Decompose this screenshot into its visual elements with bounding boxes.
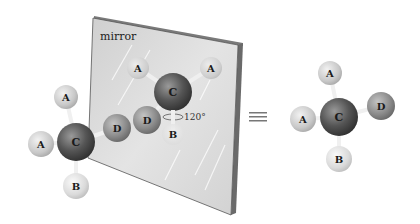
right-atom-c-label: C <box>335 111 344 124</box>
right-atom-a-top-label: A <box>325 68 334 79</box>
left-atom-a-top-label: A <box>61 92 70 103</box>
mirror-atom-d-label: D <box>143 115 152 126</box>
mirror-atom-b-label: B <box>169 129 177 140</box>
left-atom-c-label: C <box>72 136 81 149</box>
right-atom-d-label: D <box>377 101 386 112</box>
angle-label: 120° <box>184 112 206 122</box>
mirror-atom-a-left-label: A <box>133 63 142 74</box>
chirality-diagram: mirror B A A C D 120° A D A <box>0 0 420 224</box>
left-atom-b-label: B <box>72 181 80 192</box>
left-atom-a-left-label: A <box>36 139 45 150</box>
mirror-atom-c-label: C <box>169 86 178 99</box>
right-molecule: A D A B C <box>290 61 395 172</box>
left-atom-d-label: D <box>113 123 122 134</box>
mirror-atom-a-right-label: A <box>206 63 215 74</box>
right-atom-b-label: B <box>335 154 343 165</box>
right-atom-a-left-label: A <box>298 114 307 125</box>
mirror-label: mirror <box>100 30 137 43</box>
equivalence-icon <box>249 112 267 122</box>
